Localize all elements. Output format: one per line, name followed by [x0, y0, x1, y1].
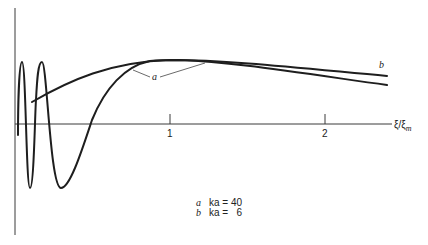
- legend-text-b: ka = 6: [209, 207, 243, 218]
- curve-b: [32, 60, 387, 102]
- x-tick-label-2: 2: [322, 128, 328, 139]
- legend: a ka = 40 b ka = 6: [196, 197, 243, 218]
- annotation-a: a: [152, 71, 157, 82]
- x-axis-label: ξ/ξm: [394, 119, 412, 133]
- annotation-a-leader-left: [133, 70, 150, 77]
- legend-key-b: b: [196, 207, 201, 218]
- chart: 1 2 ξ/ξm a b a ka = 40 b ka = 6: [0, 0, 428, 245]
- annotation-a-leader-right: [160, 63, 205, 77]
- x-tick-label-1: 1: [167, 128, 173, 139]
- annotation-b: b: [379, 59, 384, 70]
